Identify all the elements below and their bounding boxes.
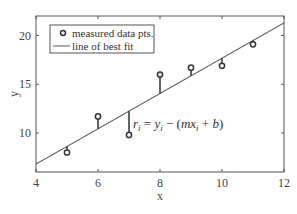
legend-label-fit: line of best fit xyxy=(72,40,133,52)
x-tick-label: 12 xyxy=(278,176,290,190)
y-tick-label: 15 xyxy=(19,77,31,91)
x-tick-label: 4 xyxy=(33,176,39,190)
x-tick-label: 6 xyxy=(95,176,101,190)
legend-label-data: measured data pts. xyxy=(72,27,154,39)
x-axis-label: x xyxy=(157,189,163,203)
residual-equation: ri = yi − (mxi + b) xyxy=(133,116,223,133)
residual-plot: 4681012101520xy measured data pts. line … xyxy=(0,0,297,214)
data-point-marker xyxy=(64,150,69,155)
data-point-marker xyxy=(188,65,193,70)
y-tick-label: 10 xyxy=(19,126,31,140)
y-tick-label: 20 xyxy=(19,29,31,43)
data-point-marker xyxy=(219,63,224,68)
legend: measured data pts. line of best fit xyxy=(50,25,154,53)
data-point-marker xyxy=(95,114,100,119)
x-tick-label: 10 xyxy=(216,176,228,190)
y-axis-label: y xyxy=(7,91,21,97)
data-point-marker xyxy=(250,42,255,47)
data-point-marker xyxy=(126,132,131,137)
x-tick-label: 8 xyxy=(157,176,163,190)
data-point-marker xyxy=(157,72,162,77)
